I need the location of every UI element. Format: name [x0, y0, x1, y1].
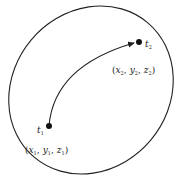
point-t2 [136, 39, 142, 45]
point-t1 [46, 123, 52, 129]
coord-t1: (x1,y1,z1) [25, 145, 68, 156]
trajectory-curve [49, 43, 134, 126]
coord-t2: (x2,y2,z2) [112, 65, 155, 76]
label-t2: t2 [145, 39, 152, 50]
label-t1: t1 [37, 125, 44, 136]
trajectory-diagram: t1 t2 (x1,y1,z1) (x2,y2,z2) [0, 0, 178, 178]
